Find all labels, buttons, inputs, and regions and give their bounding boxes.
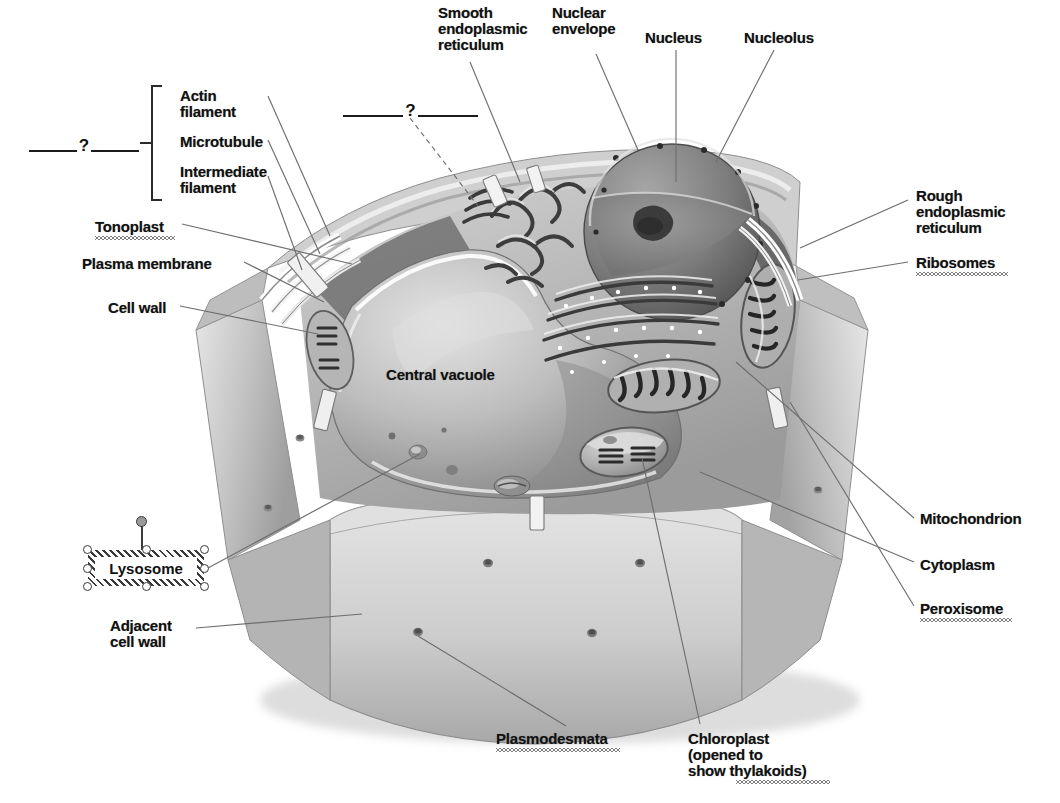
resize-handle-sw[interactable] bbox=[83, 582, 92, 591]
label-mitochondrion: Mitochondrion bbox=[920, 511, 1022, 527]
cytoskeleton-bracket bbox=[140, 86, 162, 200]
resize-handle-n[interactable] bbox=[142, 545, 151, 554]
question-mark: ? bbox=[405, 101, 415, 121]
resize-handle-s[interactable] bbox=[142, 582, 151, 591]
label-microtubule: Microtubule bbox=[180, 134, 263, 150]
spellcheck-underline-plasmodesmata bbox=[496, 748, 620, 752]
resize-handle-se[interactable] bbox=[200, 582, 209, 591]
label-tonoplast: Tonoplast bbox=[95, 219, 164, 235]
resize-handle-nw[interactable] bbox=[83, 545, 92, 554]
label-adjacent-cell-wall: Adjacent cell wall bbox=[110, 618, 172, 650]
label-nucleolus: Nucleolus bbox=[744, 30, 814, 46]
label-actin-filament: Actin filament bbox=[180, 88, 236, 120]
plant-cell-diagram-page: Actin filament Microtubule Intermediate … bbox=[0, 0, 1060, 803]
question-mark: ? bbox=[79, 136, 89, 156]
peroxisome-organelle bbox=[494, 476, 530, 496]
label-chloroplast: Chloroplast (opened to show thylakoids) bbox=[688, 731, 807, 779]
label-nuclear-envelope: Nuclear envelope bbox=[552, 5, 615, 37]
lysosome-textbox-label: Lysosome bbox=[88, 560, 204, 577]
label-rough-er: Rough endoplasmic reticulum bbox=[916, 188, 1006, 236]
rotation-handle[interactable] bbox=[136, 516, 147, 527]
spellcheck-underline-tonoplast bbox=[95, 236, 175, 240]
cell-illustration bbox=[0, 0, 1060, 803]
label-peroxisome: Peroxisome bbox=[920, 601, 1003, 617]
lysosome-textbox[interactable]: Lysosome bbox=[88, 550, 204, 586]
label-intermediate-filament: Intermediate filament bbox=[180, 164, 267, 196]
label-cell-wall: Cell wall bbox=[108, 300, 166, 316]
resize-handle-ne[interactable] bbox=[200, 545, 209, 554]
label-plasma-membrane: Plasma membrane bbox=[82, 256, 212, 272]
blank-golgi[interactable]: ? bbox=[343, 105, 478, 127]
label-plasmodesmata: Plasmodesmata bbox=[496, 731, 608, 747]
membrane-tab-bottom bbox=[530, 496, 544, 530]
label-cytoplasm: Cytoplasm bbox=[920, 557, 995, 573]
blank-segment-left bbox=[29, 150, 77, 152]
label-smooth-er: Smooth endoplasmic reticulum bbox=[438, 5, 528, 53]
blank-cytoskeleton[interactable]: ? bbox=[28, 140, 140, 162]
blank-segment-right bbox=[418, 115, 478, 117]
spellcheck-underline-peroxisome bbox=[920, 618, 1012, 622]
spellcheck-underline-ribosomes bbox=[916, 272, 1008, 276]
label-central-vacuole: Central vacuole bbox=[386, 367, 495, 383]
label-nucleus: Nucleus bbox=[645, 30, 702, 46]
resize-handle-e[interactable] bbox=[200, 564, 209, 573]
label-ribosomes: Ribosomes bbox=[916, 255, 995, 271]
blank-segment-right bbox=[91, 150, 139, 152]
blank-segment-left bbox=[343, 115, 403, 117]
spellcheck-underline-thylakoids bbox=[736, 780, 830, 784]
resize-handle-w[interactable] bbox=[83, 564, 92, 573]
